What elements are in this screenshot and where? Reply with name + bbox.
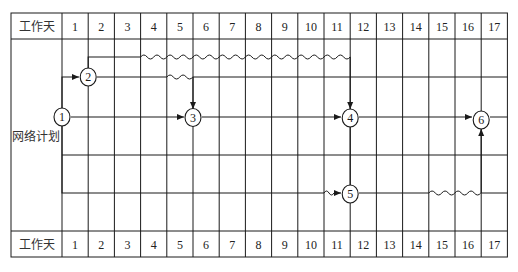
node-5-label: 5 <box>347 187 353 201</box>
arrow-2-3-wave <box>167 75 193 79</box>
footer-day: 13 <box>384 238 396 252</box>
node-3-label: 3 <box>190 111 196 125</box>
footer-day: 8 <box>256 238 262 252</box>
node-5: 5 <box>342 185 358 203</box>
footer-day: 9 <box>282 238 288 252</box>
footer-day: 6 <box>203 238 209 252</box>
footer-day: 15 <box>436 238 448 252</box>
body-row-label: 网络计划 <box>12 129 60 144</box>
header-day: 10 <box>305 20 317 34</box>
header-day: 6 <box>203 20 209 34</box>
node-2-label: 2 <box>85 70 91 84</box>
column-dividers <box>88 13 481 257</box>
footer-day: 3 <box>125 238 131 252</box>
arrow-1-5-wave <box>324 191 334 195</box>
node-1-label: 1 <box>59 110 65 124</box>
header-day: 15 <box>436 20 448 34</box>
header-day: 9 <box>282 20 288 34</box>
header-day: 8 <box>256 20 262 34</box>
footer-day: 14 <box>410 238 422 252</box>
header-day: 14 <box>410 20 422 34</box>
header-day: 4 <box>151 20 157 34</box>
time-scaled-network-diagram: 工作天 1 2 3 4 5 6 7 8 9 10 11 12 13 14 15 … <box>0 0 518 272</box>
footer-day: 11 <box>331 238 343 252</box>
header-day: 12 <box>357 20 369 34</box>
header-day: 16 <box>462 20 474 34</box>
node-6: 6 <box>473 111 489 129</box>
node-2: 2 <box>80 68 96 86</box>
grid <box>11 13 507 257</box>
footer-day: 4 <box>151 238 157 252</box>
header-day: 1 <box>72 20 78 34</box>
node-6-label: 6 <box>478 113 484 127</box>
header-row-label: 工作天 <box>19 20 55 34</box>
footer-day: 17 <box>488 238 500 252</box>
footer-day: 1 <box>72 238 78 252</box>
header-day: 13 <box>384 20 396 34</box>
node-1: 1 <box>54 108 70 126</box>
table-frame <box>11 13 507 257</box>
node-3: 3 <box>185 109 201 127</box>
footer-day: 7 <box>229 238 235 252</box>
header-day: 5 <box>177 20 183 34</box>
header-day: 3 <box>125 20 131 34</box>
header-day: 7 <box>229 20 235 34</box>
footer-day: 10 <box>305 238 317 252</box>
header-day: 2 <box>98 20 104 34</box>
header-row: 工作天 1 2 3 4 5 6 7 8 9 10 11 12 13 14 15 … <box>19 20 501 34</box>
arrow-1-2 <box>62 77 79 109</box>
footer-day: 2 <box>98 238 104 252</box>
header-day: 17 <box>488 20 500 34</box>
footer-row-label: 工作天 <box>19 238 55 252</box>
header-day: 11 <box>331 20 343 34</box>
node-4-label: 4 <box>347 111 353 125</box>
footer-day: 5 <box>177 238 183 252</box>
footer-day: 12 <box>357 238 369 252</box>
network-paths <box>62 55 507 195</box>
footer-row: 工作天 1 2 3 4 5 6 7 8 9 10 11 12 13 14 15 … <box>19 238 501 253</box>
node-4: 4 <box>342 109 358 127</box>
footer-day: 16 <box>462 238 474 252</box>
